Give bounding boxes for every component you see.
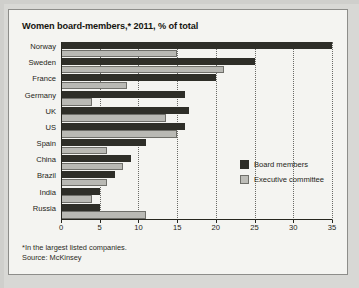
gridline [332,42,333,220]
bar-board-members [61,188,100,195]
bar-board-members [61,204,100,211]
y-axis-label-india: India [40,189,56,197]
bar-executive-committee [61,163,123,171]
y-axis-label-norway: Norway [30,43,56,51]
y-axis-label-us: US [45,124,56,132]
x-tick-label: 25 [250,223,258,232]
scan-edge-left [0,0,4,288]
bar-board-members [61,91,185,98]
chart-legend: Board members Executive committee [240,160,324,190]
y-axis-label-china: China [36,156,56,164]
x-tick-label: 15 [173,223,181,232]
legend-swatch-board-members [240,160,249,169]
bar-board-members [61,42,332,49]
bar-executive-committee [61,114,166,122]
bar-executive-committee [61,179,107,187]
chart-row: Spain [61,139,332,155]
legend-item-board-members: Board members [240,160,324,169]
bar-executive-committee [61,211,146,219]
bar-executive-committee [61,66,224,74]
bar-board-members [61,107,189,114]
chart-row: India [61,188,332,204]
chart-row: US [61,123,332,139]
legend-item-executive-committee: Executive committee [240,175,324,184]
x-tick-label: 5 [98,223,102,232]
chart-plot-area: 05101520253035NorwaySwedenFranceGermanyU… [61,42,332,220]
chart-row: UK [61,107,332,123]
bar-board-members [61,139,146,146]
y-axis-line [61,42,62,220]
chart-row: Germany [61,91,332,107]
y-axis-label-uk: UK [45,108,56,116]
y-axis-label-sweden: Sweden [29,59,56,67]
chart-row: France [61,74,332,90]
bar-executive-committee [61,50,177,58]
y-axis-label-russia: Russia [33,205,56,213]
chart-row: Russia [61,204,332,220]
y-axis-label-germany: Germany [25,92,56,100]
y-axis-label-france: France [32,75,56,83]
bar-executive-committee [61,195,92,203]
bar-board-members [61,123,185,130]
chart-row: Norway [61,42,332,58]
x-tick-label: 10 [134,223,142,232]
bar-executive-committee [61,98,92,106]
x-tick-label: 35 [328,223,336,232]
chart-row: Sweden [61,58,332,74]
bar-board-members [61,171,115,178]
bar-board-members [61,155,131,162]
bar-board-members [61,58,255,65]
legend-swatch-executive-committee [240,175,249,184]
scan-edge-top [0,0,359,4]
bar-board-members [61,74,216,81]
legend-label-board-members: Board members [254,160,308,169]
x-axis-line [61,219,332,220]
bar-executive-committee [61,147,107,155]
y-axis-label-spain: Spain [37,140,56,148]
chart-source: Source: McKinsey [22,253,127,263]
bar-executive-committee [61,130,177,138]
plot-inner: 05101520253035NorwaySwedenFranceGermanyU… [61,42,332,220]
chart-card: Women board-members,* 2011, % of total 0… [8,9,348,275]
y-axis-label-brazil: Brazil [37,172,56,180]
screenshot-page: Women board-members,* 2011, % of total 0… [0,0,359,288]
x-tick-label: 30 [289,223,297,232]
chart-footer: *In the largest listed companies. Source… [22,243,127,262]
x-tick-label: 0 [59,223,63,232]
chart-footnote: *In the largest listed companies. [22,243,127,253]
x-tick-label: 20 [212,223,220,232]
legend-label-executive-committee: Executive committee [254,175,324,184]
chart-title: Women board-members,* 2011, % of total [22,21,198,31]
bar-executive-committee [61,82,127,90]
